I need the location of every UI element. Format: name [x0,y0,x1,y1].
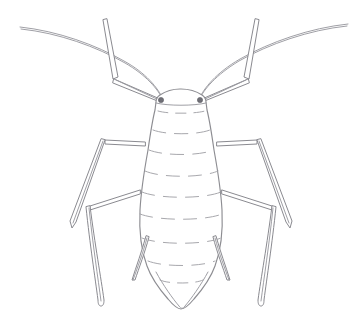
right-compound-eye [197,97,202,102]
body-outline [140,89,222,309]
figure-root: Aphid, dorsal view [0,0,362,324]
aphid-illustration [0,0,362,324]
left-compound-eye [158,97,163,102]
body-group [140,89,222,309]
